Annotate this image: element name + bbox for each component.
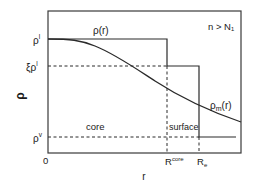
step-density-profile [48,39,236,137]
plot-frame [48,11,241,153]
smooth-profile-label: ρm(r) [210,100,232,112]
x-axis-label: r [142,171,146,182]
y-tick-rho-l: ρl [33,33,41,46]
y-tick-rho-v: ρv [33,131,43,144]
y-tick-xi-rho-l: ξρl [26,60,38,74]
condition-label: n > N₁ [208,21,234,32]
x-tick-r-e: Re [197,156,208,168]
x-tick-r-core: Rcore [165,156,184,167]
x-tick-origin: 0 [43,155,48,166]
step-profile-label: ρ(r) [93,25,109,36]
core-region-label: core [86,121,104,132]
y-axis-label: ρ [13,92,27,99]
surface-region-label: surface [169,122,199,132]
density-profile-diagram: n > N₁ ρ(r) ρm(r) ρl ξρl ρv ρ 0 Rcore Re… [0,0,254,186]
